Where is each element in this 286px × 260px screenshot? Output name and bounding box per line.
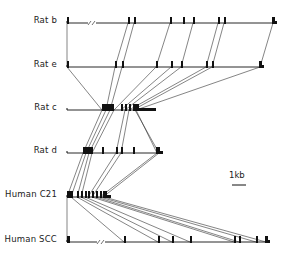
exon [224,17,226,24]
exon [234,236,236,243]
exon [193,17,195,24]
terminal-exon-utr [265,240,270,243]
row-label: Rat b [34,15,57,25]
exon [218,17,220,24]
homology-connector [135,110,159,153]
exon [83,147,93,154]
homology-connector [115,23,128,67]
exon [206,61,208,68]
terminal-exon-utr [103,195,111,198]
exon [172,236,174,243]
exon [102,147,104,154]
exon [115,61,117,68]
row-label: Rat e [34,59,57,69]
homology-connector [100,197,256,242]
homology-connector [260,23,273,67]
exon [100,191,102,198]
homology-connector [71,197,124,242]
homology-connector [83,110,102,153]
exon [133,147,135,154]
exon [67,191,73,198]
homology-connector [103,153,159,197]
exon [88,191,90,198]
exon [183,17,185,24]
exon [81,191,83,198]
homology-connector [121,67,171,110]
homology-connector [129,67,206,110]
homology-connector [116,110,125,153]
exon [129,104,131,111]
homology-connector [85,197,190,242]
scale-bar-label: 1kb [229,170,245,180]
terminal-exon-utr [272,21,277,24]
exon [102,104,114,111]
exon [124,236,126,243]
exon [190,236,192,243]
homology-connector [81,197,172,242]
exon [212,61,214,68]
exon [121,104,123,111]
row-label: Rat c [34,102,57,112]
homology-connector [212,23,224,67]
homology-connector [206,23,218,67]
exon [96,191,98,198]
exon [67,236,70,243]
exon [116,147,118,154]
exon [92,191,94,198]
exon [134,17,136,24]
exon [122,61,124,68]
terminal-exon-utr [156,151,163,154]
homology-connector [156,23,170,67]
exon [121,147,123,154]
homology-connector [121,110,129,153]
terminal-exon-utr [135,108,156,111]
exon [170,17,172,24]
terminal-exon-utr [259,65,264,68]
exon [85,191,87,198]
homology-connector [104,197,266,242]
homology-connector [67,67,102,110]
homology-connector [136,67,260,110]
row-label: Human C21 [5,189,57,199]
homology-connector [106,67,115,110]
exon [239,236,241,243]
homology-connector [136,110,157,153]
homology-connector [81,153,92,197]
homology-connector [67,153,83,197]
homology-connector [100,153,157,197]
row-label: Rat d [34,145,57,155]
homology-connector [92,197,234,242]
gene-start-tick [67,151,68,153]
exon [67,17,69,24]
homology-connector [122,23,134,67]
exon [125,104,127,111]
row-label: Human SCC [5,234,57,244]
gene-start-tick [67,108,68,110]
exon [128,17,130,24]
gene-structure-diagram [0,0,286,260]
exon [158,236,160,243]
exon [156,61,158,68]
exon [181,61,183,68]
exon [77,191,79,198]
homology-connector [92,153,121,197]
homology-connector [181,23,193,67]
exon [171,61,173,68]
exon [256,236,258,243]
homology-connector [89,110,110,153]
exon [67,61,69,68]
exon [133,104,135,111]
